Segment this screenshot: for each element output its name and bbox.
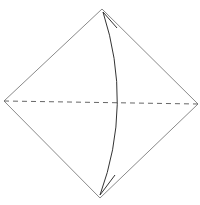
origami-diagram xyxy=(0,0,200,205)
